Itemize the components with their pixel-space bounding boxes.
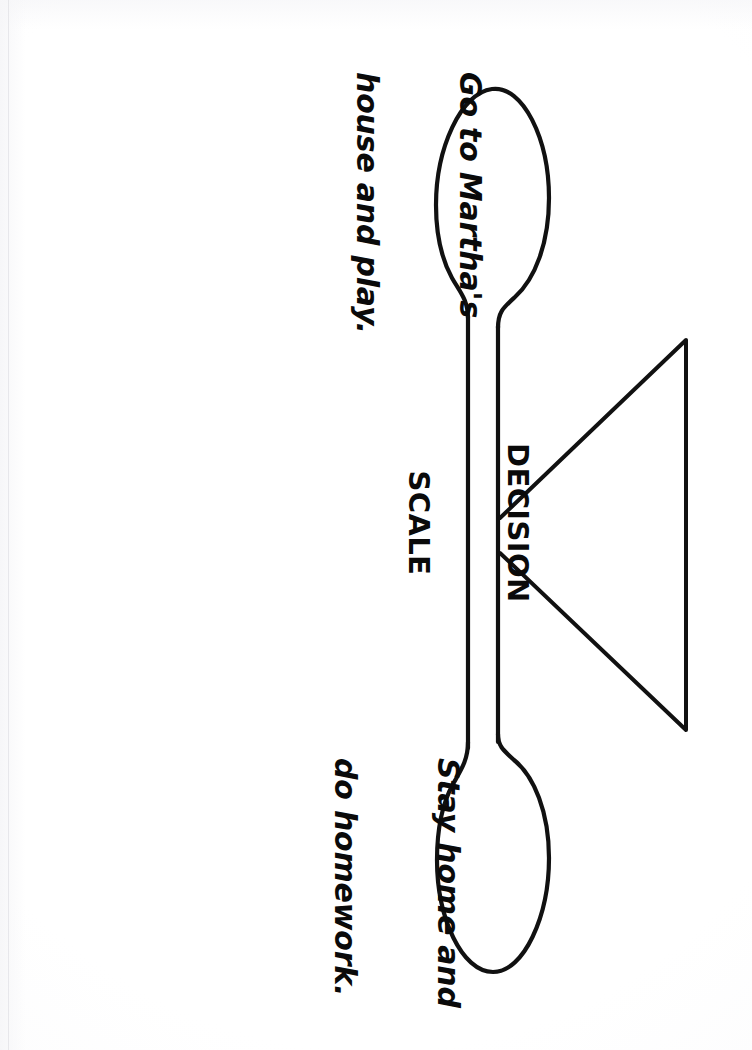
- pan-lower-caption: Stay home and do homework.: [260, 758, 534, 1008]
- pan-upper-caption: Go to Martha's house and play.: [282, 72, 556, 334]
- pan-lower-caption-line-1: Stay home and: [430, 758, 464, 1008]
- worksheet-page: Go to Martha's house and play. DECISION …: [0, 0, 752, 1050]
- fulcrum-label-line-2: SCALE: [402, 443, 435, 603]
- fulcrum-label: DECISION SCALE: [336, 443, 600, 603]
- pan-upper-caption-line-1: Go to Martha's: [452, 72, 486, 334]
- pan-lower-caption-line-2: do homework.: [328, 758, 362, 1008]
- pan-upper-caption-line-2: house and play.: [350, 72, 384, 334]
- fulcrum-label-line-1: DECISION: [501, 443, 534, 603]
